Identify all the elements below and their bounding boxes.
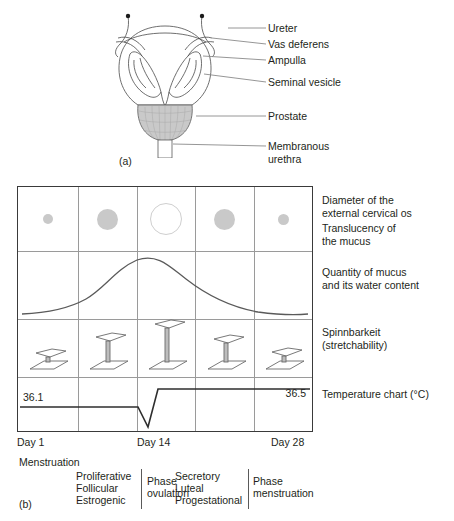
leader-membranous-urethra bbox=[173, 144, 266, 146]
row-mucus-quantity bbox=[18, 251, 312, 319]
label-ureter: Ureter bbox=[268, 22, 297, 35]
label-diameter-line1: Diameter of the bbox=[322, 194, 394, 206]
axis-label-day-14: Day 14 bbox=[137, 436, 170, 448]
label-diameter-external-cervical-os: Diameter of the external cervical os bbox=[322, 194, 412, 219]
panel-b-menstrual-cycle-chart: 36.1 36.5 Diameter of the external cervi… bbox=[0, 178, 454, 521]
panel-a-male-accessory-organs: Ureter Vas deferens Ampulla Seminal vesi… bbox=[0, 0, 454, 178]
panel-a-leader-lines bbox=[0, 0, 454, 178]
basal-body-temperature-curve bbox=[18, 377, 312, 431]
os-cell-day-28 bbox=[254, 187, 312, 251]
os-cell-day-7 bbox=[78, 187, 137, 251]
leader-seminal-vesicle bbox=[204, 74, 266, 82]
axis-label-day-1: Day 1 bbox=[17, 436, 44, 448]
spinnbarkeit-icon-day-14 bbox=[149, 320, 187, 369]
phase-block-menstruation-phase: Phase menstruation bbox=[253, 475, 314, 499]
phase-menstruation-line2: menstruation bbox=[253, 487, 314, 499]
cervical-os-circle-day-28 bbox=[278, 214, 289, 225]
label-translucency-line2: the mucus bbox=[322, 235, 370, 247]
axis-label-day-28: Day 28 bbox=[271, 436, 304, 448]
label-seminal-vesicle: Seminal vesicle bbox=[268, 76, 341, 89]
temperature-elevated-value: 36.5 bbox=[286, 387, 306, 399]
phase-menstruation-line1: Phase bbox=[253, 475, 283, 487]
phase-ovulation-line1: Phase bbox=[147, 475, 177, 487]
label-temperature-chart: Temperature chart (°C) bbox=[322, 388, 429, 401]
phase-block-follicular: Proliferative Follicular Estrogenic bbox=[76, 470, 131, 507]
cervical-os-circle-day-21 bbox=[214, 209, 235, 230]
mucus-quantity-curve bbox=[18, 251, 312, 319]
label-spinnbarkeit: Spinnbarkeit (stretchability) bbox=[322, 326, 387, 351]
label-diameter-line2: external cervical os bbox=[322, 207, 412, 219]
panel-b-tag: (b) bbox=[19, 498, 32, 510]
phase-luteal-line2: Luteal bbox=[175, 482, 204, 494]
phase-luteal-line1: Secretory bbox=[175, 470, 220, 482]
label-translucency-of-mucus: Translucency of the mucus bbox=[322, 222, 396, 247]
leader-vas-deferens bbox=[212, 38, 266, 44]
label-translucency-line1: Translucency of bbox=[322, 222, 396, 234]
spinnbarkeit-icon-day-7 bbox=[90, 333, 128, 369]
figure-root: Ureter Vas deferens Ampulla Seminal vesi… bbox=[0, 0, 454, 521]
leader-ampulla bbox=[203, 56, 266, 60]
temperature-baseline-value: 36.1 bbox=[23, 391, 43, 403]
label-ampulla: Ampulla bbox=[268, 54, 306, 67]
phase-label-menstruation: Menstruation bbox=[19, 456, 80, 468]
phase-luteal-line3: Progestational bbox=[175, 494, 242, 506]
phase-follicular-line2: Follicular bbox=[76, 482, 118, 494]
phase-brace-1 bbox=[141, 469, 142, 509]
spinnbarkeit-icon-day-1 bbox=[30, 349, 68, 369]
phase-block-luteal: Secretory Luteal Progestational bbox=[175, 470, 242, 507]
row-spinnbarkeit bbox=[18, 319, 312, 377]
label-membranous-urethra-line1: Membranous bbox=[268, 140, 329, 152]
cervical-os-circle-day-14-translucent bbox=[150, 203, 182, 235]
cycle-chart-frame: 36.1 36.5 bbox=[17, 186, 313, 432]
row-temperature-chart: 36.1 36.5 bbox=[18, 377, 312, 431]
phase-follicular-line1: Proliferative bbox=[76, 470, 131, 482]
label-membranous-urethra: Membranous urethra bbox=[268, 140, 358, 165]
os-cell-day-1 bbox=[18, 187, 78, 251]
label-quantity-line2: and its water content bbox=[322, 279, 419, 291]
label-prostate: Prostate bbox=[268, 110, 307, 123]
label-vas-deferens: Vas deferens bbox=[268, 38, 329, 51]
spinnbarkeit-icon-day-21 bbox=[208, 335, 246, 369]
label-quantity-of-mucus: Quantity of mucus and its water content bbox=[322, 266, 419, 291]
label-spinnbarkeit-line2: (stretchability) bbox=[322, 339, 387, 351]
os-cell-day-21 bbox=[195, 187, 254, 251]
os-cell-day-14 bbox=[137, 187, 195, 251]
label-quantity-line1: Quantity of mucus bbox=[322, 266, 407, 278]
cervical-os-circle-day-7 bbox=[97, 209, 118, 230]
cervical-os-circle-day-1 bbox=[43, 214, 53, 224]
row-cervical-os-circles bbox=[18, 187, 312, 251]
phase-follicular-line3: Estrogenic bbox=[76, 494, 126, 506]
spinnbarkeit-icon-day-28 bbox=[266, 348, 304, 369]
label-membranous-urethra-line2: urethra bbox=[268, 153, 301, 165]
phase-brace-2 bbox=[248, 469, 249, 509]
label-spinnbarkeit-line1: Spinnbarkeit bbox=[322, 326, 380, 338]
panel-a-tag: (a) bbox=[119, 155, 132, 167]
spinnbarkeit-icons bbox=[18, 319, 312, 377]
